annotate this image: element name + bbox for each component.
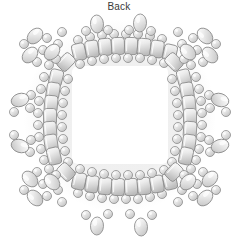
seed-bead-highlight: [123, 196, 126, 199]
corner-seed-bead-bottom-left: [58, 198, 67, 207]
seed-bead-highlight: [101, 56, 104, 59]
seed-bead-body: [195, 145, 204, 154]
seed-bead-body: [124, 171, 133, 180]
corner-seed-bead-top-left: [58, 28, 67, 37]
seed-bead-highlight: [55, 41, 58, 44]
seed-bead-highlight: [59, 124, 62, 127]
tile-bead-top: [84, 40, 99, 59]
corner-seed-bead-bottom-right: [187, 165, 196, 174]
seed-bead-body: [136, 54, 145, 63]
seed-bead-highlight: [174, 136, 177, 139]
seed-bead-highlight: [148, 28, 151, 31]
seed-bead-body: [222, 108, 231, 117]
seed-bead-highlight: [174, 100, 177, 103]
seed-bead-highlight: [137, 172, 140, 175]
seed-bead-body: [212, 40, 221, 49]
seed-bead-highlight: [46, 166, 49, 169]
seed-bead-body: [187, 165, 196, 174]
seed-bead-highlight: [200, 59, 203, 62]
beaded-frame-figure: Back: [0, 0, 238, 248]
tile-bead-body: [98, 38, 112, 56]
seed-bead-body: [88, 57, 97, 66]
seed-bead-highlight: [198, 98, 201, 101]
seed-bead-highlight: [113, 172, 116, 175]
seed-bead-body: [43, 34, 52, 43]
outer-seed-bead-right: [195, 145, 204, 154]
seed-bead-highlight: [190, 193, 193, 196]
inner-seed-bead-right: [168, 75, 177, 84]
seed-bead-body: [147, 27, 156, 36]
seed-bead-highlight: [196, 146, 199, 149]
seed-bead-highlight: [169, 159, 172, 162]
seed-bead-highlight: [75, 190, 78, 193]
seed-bead-body: [45, 165, 54, 174]
seed-bead-body: [126, 210, 135, 219]
inner-seed-bead-top: [124, 54, 133, 63]
tile-bead-body: [98, 177, 112, 195]
seed-bead-body: [100, 55, 109, 64]
seed-bead-body: [27, 136, 36, 145]
seed-bead-highlight: [198, 134, 201, 137]
seed-bead-highlight: [193, 74, 196, 77]
inner-seed-bead-top: [148, 56, 157, 65]
seed-bead-body: [35, 97, 44, 106]
seed-bead-highlight: [175, 112, 178, 115]
tile-bead-bottom: [84, 175, 99, 194]
seed-bead-highlight: [59, 29, 62, 32]
seed-bead-highlight: [161, 167, 164, 170]
seed-bead-body: [37, 145, 46, 154]
seed-bead-highlight: [87, 193, 90, 196]
seed-bead-body: [58, 123, 67, 132]
accent-bead-body: [90, 217, 104, 236]
inner-seed-bead-left: [59, 135, 68, 144]
seed-bead-body: [58, 111, 67, 120]
seed-bead-body: [168, 75, 177, 84]
inner-seed-bead-left: [59, 99, 68, 108]
seed-bead-highlight: [83, 28, 86, 31]
outer-seed-bead-left: [35, 97, 44, 106]
seed-bead-highlight: [188, 166, 191, 169]
bottom-pendant-bead: [90, 217, 104, 236]
seed-bead-highlight: [36, 134, 39, 137]
outer-seed-bead-left: [37, 145, 46, 154]
seed-bead-highlight: [188, 62, 191, 65]
seed-bead-body: [171, 87, 180, 96]
frame-opening-area: [72, 66, 168, 164]
seed-bead-body: [45, 61, 54, 70]
seed-bead-body: [212, 186, 221, 195]
top-accent-side-seed-bead: [125, 26, 134, 35]
seed-bead-highlight: [11, 132, 14, 135]
seed-bead-highlight: [125, 55, 128, 58]
seed-bead-highlight: [223, 109, 226, 112]
top-accent-side-seed-bead: [147, 27, 156, 36]
bottom-pendant-bead: [134, 218, 148, 237]
seed-bead-highlight: [101, 171, 104, 174]
frame-opening: [72, 66, 168, 164]
inner-seed-bead-top: [76, 60, 85, 69]
outer-seed-bead-right: [195, 85, 204, 94]
seed-bead-body: [104, 210, 113, 219]
accent-bead-body: [134, 218, 148, 237]
seed-bead-highlight: [175, 199, 178, 202]
inner-seed-bead-bottom: [100, 170, 109, 179]
seed-bead-highlight: [11, 109, 14, 112]
seed-bead-highlight: [59, 112, 62, 115]
seed-bead-body: [174, 28, 183, 37]
seed-bead-highlight: [34, 169, 37, 172]
seed-bead-highlight: [190, 35, 193, 38]
corner-seed-bead-bottom-left: [43, 192, 52, 201]
seed-bead-highlight: [62, 88, 65, 91]
corner-seed-bead-top-right: [189, 34, 198, 43]
seed-bead-highlight: [44, 35, 47, 38]
protrusion-seed-bead-right-2: [205, 136, 214, 145]
inner-seed-bead-right: [171, 147, 180, 156]
seed-bead-highlight: [60, 100, 63, 103]
seed-bead-highlight: [161, 60, 164, 63]
corner-seed-bead-bottom-right: [174, 198, 183, 207]
inner-seed-bead-bottom: [76, 165, 85, 174]
seed-bead-body: [43, 192, 52, 201]
seed-bead-highlight: [38, 146, 41, 149]
seed-bead-body: [34, 109, 43, 118]
seed-bead-body: [20, 186, 29, 195]
tile-bead-top: [98, 38, 112, 56]
